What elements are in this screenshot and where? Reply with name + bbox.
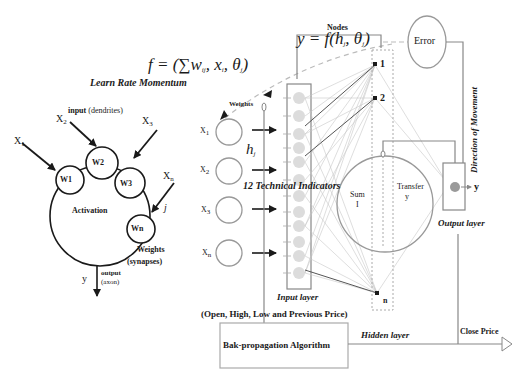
close-price-label: Close Price: [460, 328, 498, 336]
sum-label: Sum: [350, 191, 365, 199]
hidden-layer-label: Hidden layer: [361, 331, 409, 340]
synapses-label: (synapses): [127, 258, 162, 266]
output-formula: y = f(hj, θj): [297, 30, 370, 48]
activation-label: Activation: [72, 207, 108, 215]
neuron-input-x3: X3: [142, 116, 153, 128]
wn-label: Wn: [131, 225, 143, 233]
error-label: Error: [414, 36, 435, 46]
w2-label: W2: [92, 159, 104, 167]
sum-formula: f = (∑wij, xi, θj): [148, 56, 248, 74]
j-label: j: [164, 203, 167, 213]
direction-of-movement-label: Direction of Movement: [470, 87, 479, 173]
transfer-label: Transfer: [397, 183, 424, 191]
hidden-node-n: n: [383, 297, 387, 305]
hidden-node-2: 2: [380, 93, 385, 103]
learn-rate-label: Learn Rate Momentum: [90, 78, 187, 88]
output-y: y: [474, 182, 479, 192]
ann-input-x3: X3: [201, 206, 210, 216]
input-layer-label: Input layer: [277, 293, 318, 302]
hj-label: hj: [246, 142, 255, 158]
output-layer-label: Output layer: [438, 219, 485, 228]
ann-input-x2: X2: [200, 166, 209, 176]
transfer-var: y: [405, 193, 409, 201]
w3-label: W3: [120, 180, 132, 188]
sum-transfer-circle: [337, 156, 433, 252]
neuron-output-y: y: [82, 274, 87, 284]
neuron-input-xn: Xn: [163, 171, 174, 183]
input-dendrites-label: input (dendrites): [68, 107, 123, 115]
weights-label: Weights: [229, 101, 253, 108]
input-description: (Open, High, Low and Previous Price): [201, 310, 348, 319]
diagram-canvas: [0, 0, 525, 382]
ann-input-x1: X1: [200, 127, 209, 137]
hidden-node-1: 1: [380, 59, 385, 69]
output-label: output: [101, 270, 121, 277]
nodes-label: Nodes: [327, 24, 348, 32]
sum-var: I: [356, 201, 359, 209]
neuron-input-x2: X2: [56, 114, 67, 126]
ann-input-xn: Xn: [202, 249, 211, 259]
synapses-weights-label: Weights: [137, 246, 165, 254]
neuron-input-x1: X1: [14, 136, 25, 148]
technical-indicators-label: 12 Technical Indicators: [243, 181, 340, 191]
w1-label: W1: [60, 176, 72, 184]
backprop-label: Bak-propagation Algorithm: [223, 341, 330, 350]
axon-label: (axon): [101, 279, 119, 286]
